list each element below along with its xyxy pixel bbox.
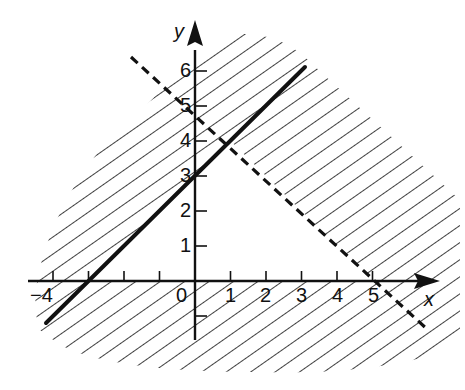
- y-tick-label: 3: [180, 164, 191, 186]
- x-tick-label: 5: [368, 284, 379, 306]
- x-axis-label: x: [423, 288, 435, 310]
- x-tick-label: 3: [296, 284, 307, 306]
- y-tick-label: 1: [180, 234, 191, 256]
- y-axis-label: y: [172, 20, 185, 42]
- y-tick-label: 2: [180, 199, 191, 221]
- x-tick-label: 4: [332, 284, 343, 306]
- y-tick-label: 6: [180, 59, 191, 81]
- y-axis-arrow-icon: [187, 20, 203, 46]
- inequality-graph: y x −4 0 1 2 3 4 5 1 2 3 4 5 6: [0, 0, 465, 390]
- x-tick-label: 2: [260, 284, 271, 306]
- origin-label: 0: [176, 284, 187, 306]
- x-tick-label: 1: [225, 284, 236, 306]
- x-tick-label: −4: [30, 284, 53, 306]
- y-tick-label: 5: [180, 94, 191, 116]
- y-tick-label: 4: [180, 129, 191, 151]
